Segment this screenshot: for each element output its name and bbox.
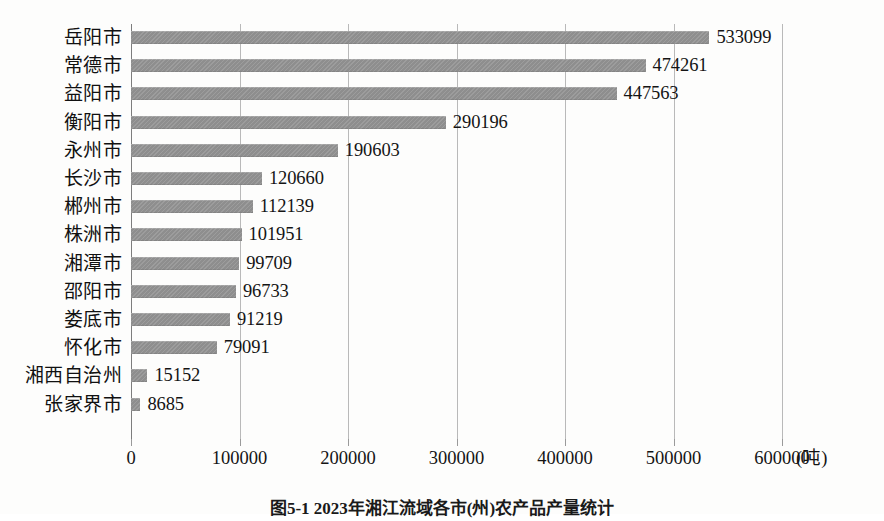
bar-row: 112139 xyxy=(131,193,782,221)
x-tick-600000 xyxy=(782,439,783,446)
bar[interactable] xyxy=(131,341,217,354)
bar-row: 120660 xyxy=(131,165,782,193)
bar-value-label: 99709 xyxy=(239,250,292,278)
bar[interactable] xyxy=(131,172,262,185)
x-tick-200000 xyxy=(348,439,349,446)
bar-row: 474261 xyxy=(131,52,782,80)
bar[interactable] xyxy=(131,398,140,411)
plot-area: 5330994742614475632901961906031206601121… xyxy=(131,24,782,439)
x-tick-0 xyxy=(131,439,132,446)
bar-row: 101951 xyxy=(131,221,782,249)
category-label: 湘西自治州 xyxy=(25,362,122,390)
x-tick-300000 xyxy=(457,439,458,446)
bar-row: 15152 xyxy=(131,362,782,390)
bar-row: 8685 xyxy=(131,391,782,419)
bar-value-label: 91219 xyxy=(230,306,283,334)
bar[interactable] xyxy=(131,144,338,157)
gridline-600000 xyxy=(782,24,783,439)
bar[interactable] xyxy=(131,228,242,241)
bar-value-label: 8685 xyxy=(140,391,184,419)
bar-value-label: 474261 xyxy=(646,52,708,80)
x-axis-labels: 0100000200000300000400000500000600000(吨) xyxy=(0,446,884,472)
bar-value-label: 15152 xyxy=(147,362,200,390)
figure-caption: 图5-1 2023年湘江流域各市(州)农产品产量统计 xyxy=(0,497,884,521)
bar-row: 96733 xyxy=(131,278,782,306)
category-label: 长沙市 xyxy=(64,165,122,193)
bar[interactable] xyxy=(131,257,239,270)
x-tick-400000 xyxy=(565,439,566,446)
x-tick-label: 500000 xyxy=(646,446,702,470)
bar-row: 533099 xyxy=(131,24,782,52)
bar-row: 79091 xyxy=(131,334,782,362)
category-label: 株洲市 xyxy=(64,221,122,249)
category-label: 邵阳市 xyxy=(64,278,122,306)
bar-value-label: 112139 xyxy=(253,193,314,221)
category-label: 娄底市 xyxy=(64,306,122,334)
category-label: 常德市 xyxy=(64,52,122,80)
category-label: 衡阳市 xyxy=(64,109,122,137)
category-label: 郴州市 xyxy=(64,193,122,221)
bar-value-label: 290196 xyxy=(446,109,508,137)
x-tick-500000 xyxy=(674,439,675,446)
bar-value-label: 533099 xyxy=(709,24,771,52)
category-label: 益阳市 xyxy=(64,80,122,108)
bar-row: 190603 xyxy=(131,137,782,165)
bar[interactable] xyxy=(131,59,646,72)
x-tick-label: 300000 xyxy=(429,446,485,470)
bar-row: 290196 xyxy=(131,109,782,137)
bar[interactable] xyxy=(131,285,236,298)
category-label: 永州市 xyxy=(64,137,122,165)
category-label: 岳阳市 xyxy=(64,24,122,52)
category-label: 湘潭市 xyxy=(64,250,122,278)
x-tick-100000 xyxy=(240,439,241,446)
bar[interactable] xyxy=(131,200,253,213)
bar-row: 99709 xyxy=(131,250,782,278)
bar[interactable] xyxy=(131,87,617,100)
category-label: 怀化市 xyxy=(64,334,122,362)
bar-value-label: 96733 xyxy=(236,278,289,306)
bar[interactable] xyxy=(131,313,230,326)
bar-value-label: 79091 xyxy=(217,334,270,362)
bar[interactable] xyxy=(131,116,446,129)
bar-rows: 5330994742614475632901961906031206601121… xyxy=(131,24,782,439)
x-axis-unit-label: (吨) xyxy=(796,446,827,470)
bar[interactable] xyxy=(131,369,147,382)
x-tick-label: 100000 xyxy=(212,446,268,470)
bar-row: 447563 xyxy=(131,80,782,108)
category-axis: 岳阳市常德市益阳市衡阳市永州市长沙市郴州市株洲市湘潭市邵阳市娄底市怀化市湘西自治… xyxy=(0,24,126,439)
bar-value-label: 120660 xyxy=(262,165,324,193)
bar-row: 91219 xyxy=(131,306,782,334)
bar-value-label: 190603 xyxy=(338,137,400,165)
bar-value-label: 101951 xyxy=(242,221,304,249)
bar-value-label: 447563 xyxy=(617,80,679,108)
bar[interactable] xyxy=(131,31,709,44)
category-label: 张家界市 xyxy=(44,391,122,419)
x-tick-label: 0 xyxy=(126,446,135,470)
x-tick-label: 400000 xyxy=(537,446,593,470)
x-tick-label: 200000 xyxy=(320,446,376,470)
